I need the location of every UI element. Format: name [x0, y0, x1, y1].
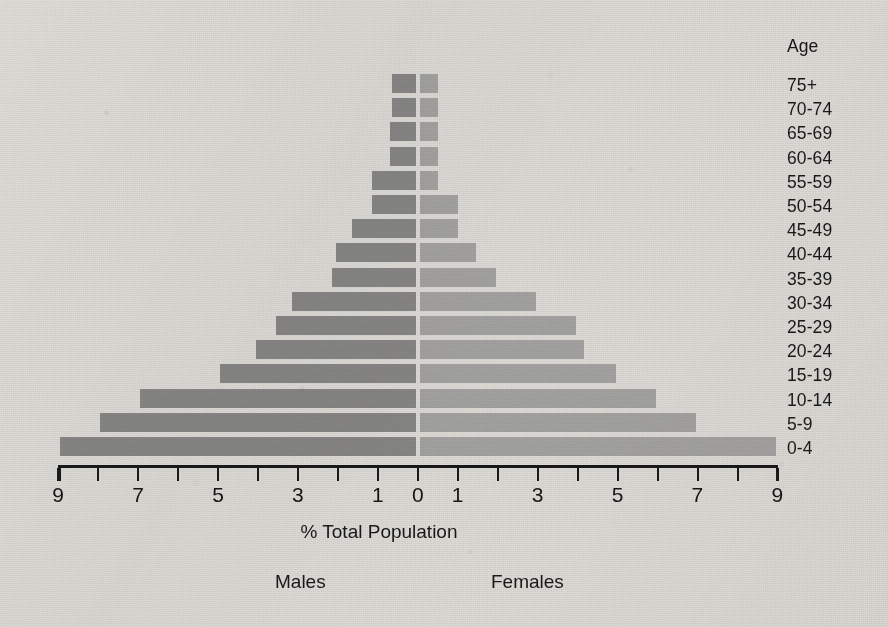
- age-label-10-14: 10-14: [787, 390, 832, 411]
- males-legend-label: Males: [275, 571, 326, 593]
- bar-female-0-4: [420, 437, 776, 456]
- x-axis-tick-1: [97, 468, 99, 481]
- x-axis-tick-3: [177, 468, 179, 481]
- x-axis-tick-7: [337, 468, 339, 481]
- bar-male-30-34: [292, 292, 416, 311]
- bar-female-15-19: [420, 364, 616, 383]
- x-axis-tick-label-16: 7: [678, 483, 718, 507]
- x-axis-tick-10: [457, 468, 459, 481]
- bar-male-25-29: [276, 316, 416, 335]
- age-label-15-19: 15-19: [787, 365, 832, 386]
- x-axis-tick-label-10: 1: [438, 483, 478, 507]
- x-axis-tick-label-2: 7: [118, 483, 158, 507]
- bar-male-10-14: [140, 389, 416, 408]
- age-label-50-54: 50-54: [787, 196, 832, 217]
- bar-male-20-24: [256, 340, 416, 359]
- bar-female-25-29: [420, 316, 576, 335]
- x-axis-tick-8: [377, 468, 379, 481]
- bar-male-40-44: [336, 243, 416, 262]
- females-legend-label: Females: [491, 571, 564, 593]
- bar-female-70-74: [420, 98, 438, 117]
- x-axis-title: % Total Population: [0, 521, 888, 543]
- age-label-60-64: 60-64: [787, 148, 832, 169]
- x-axis-tick-label-8: 1: [358, 483, 398, 507]
- age-label-35-39: 35-39: [787, 269, 832, 290]
- bar-male-45-49: [352, 219, 416, 238]
- x-axis-tick-12: [537, 468, 539, 481]
- x-axis-tick-5: [257, 468, 259, 481]
- bar-female-40-44: [420, 243, 476, 262]
- x-axis-tick-label-9: 0: [398, 483, 438, 507]
- x-axis-tick-11: [497, 468, 499, 481]
- bar-male-0-4: [60, 437, 416, 456]
- age-label-40-44: 40-44: [787, 244, 832, 265]
- x-axis-tick-label-14: 5: [598, 483, 638, 507]
- x-axis-tick-16: [697, 468, 699, 481]
- population-pyramid-chart: 97531013579 75+70-7465-6960-6455-5950-54…: [0, 0, 888, 627]
- age-label-30-34: 30-34: [787, 293, 832, 314]
- x-axis-tick-2: [137, 468, 139, 481]
- x-axis-tick-9: [417, 468, 419, 481]
- bar-male-70-74: [392, 98, 416, 117]
- x-axis-tick-13: [577, 468, 579, 481]
- bar-male-15-19: [220, 364, 416, 383]
- bar-male-5-9: [100, 413, 416, 432]
- x-axis-tick-6: [297, 468, 299, 481]
- bar-female-65-69: [420, 122, 438, 141]
- bar-female-35-39: [420, 268, 496, 287]
- x-axis-tick-label-12: 3: [518, 483, 558, 507]
- age-column-heading: Age: [787, 36, 818, 57]
- x-axis-tick-4: [217, 468, 219, 481]
- age-label-45-49: 45-49: [787, 220, 832, 241]
- age-label-55-59: 55-59: [787, 172, 832, 193]
- bar-female-60-64: [420, 147, 438, 166]
- bar-male-50-54: [372, 195, 416, 214]
- bar-male-75+: [392, 74, 416, 93]
- bar-female-75+: [420, 74, 438, 93]
- bar-female-20-24: [420, 340, 584, 359]
- x-axis-end-cap-right: [776, 468, 779, 481]
- x-axis-tick-label-6: 3: [278, 483, 318, 507]
- age-label-25-29: 25-29: [787, 317, 832, 338]
- x-axis-tick-label-4: 5: [198, 483, 238, 507]
- x-axis-end-cap-left: [58, 468, 61, 481]
- bar-male-35-39: [332, 268, 416, 287]
- bar-female-30-34: [420, 292, 536, 311]
- age-label-0-4: 0-4: [787, 438, 813, 459]
- x-axis-tick-15: [657, 468, 659, 481]
- bar-female-50-54: [420, 195, 458, 214]
- bar-female-55-59: [420, 171, 438, 190]
- x-axis-tick-label-18: 9: [758, 483, 798, 507]
- x-axis-tick-14: [617, 468, 619, 481]
- age-label-5-9: 5-9: [787, 414, 813, 435]
- age-label-65-69: 65-69: [787, 123, 832, 144]
- bar-female-5-9: [420, 413, 696, 432]
- age-label-75+: 75+: [787, 75, 817, 96]
- x-axis-tick-17: [737, 468, 739, 481]
- bar-male-65-69: [390, 122, 416, 141]
- age-label-20-24: 20-24: [787, 341, 832, 362]
- bar-male-60-64: [390, 147, 416, 166]
- age-label-70-74: 70-74: [787, 99, 832, 120]
- bar-female-45-49: [420, 219, 458, 238]
- x-axis-tick-label-0: 9: [38, 483, 78, 507]
- bar-male-55-59: [372, 171, 416, 190]
- bar-female-10-14: [420, 389, 656, 408]
